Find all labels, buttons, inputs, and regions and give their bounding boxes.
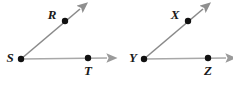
- vertex-point-y: [141, 56, 147, 62]
- label-s: S: [6, 50, 13, 65]
- ray-st: [21, 58, 107, 59]
- angle-xyz-group: Y X Z: [129, 7, 226, 78]
- label-y: Y: [129, 50, 138, 65]
- angle-diagram-figure: S R T Y X Z: [0, 0, 233, 93]
- point-x: [185, 18, 191, 24]
- point-z: [205, 55, 211, 61]
- label-z: Z: [203, 63, 212, 78]
- point-t: [85, 55, 91, 61]
- label-t: T: [84, 63, 93, 78]
- angle-rst-group: S R T: [6, 7, 107, 78]
- label-r: R: [47, 7, 57, 22]
- vertex-point-s: [18, 56, 24, 62]
- label-x: X: [170, 7, 180, 22]
- point-r: [62, 18, 68, 24]
- ray-yz: [144, 58, 226, 59]
- angle-diagram-canvas: S R T Y X Z: [0, 0, 233, 93]
